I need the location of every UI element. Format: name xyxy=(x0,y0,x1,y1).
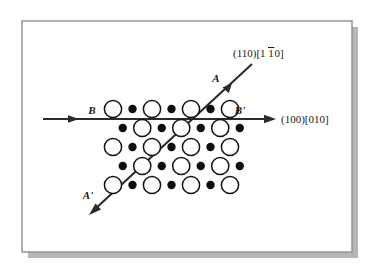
atom-open xyxy=(182,138,199,155)
label-plane-110-barred-digit: 1 xyxy=(268,47,274,59)
atom-filled xyxy=(206,181,214,189)
atom-open xyxy=(212,157,229,174)
atom-open xyxy=(182,100,199,117)
atom-filled xyxy=(206,105,214,113)
label-A-prime: A' xyxy=(82,189,93,201)
atom-filled xyxy=(206,143,214,151)
atom-open xyxy=(221,176,238,193)
atom-open xyxy=(182,176,199,193)
atom-filled xyxy=(167,143,175,151)
atom-open xyxy=(221,138,238,155)
label-plane-100: (100)[010] xyxy=(281,113,329,126)
atom-filled xyxy=(128,181,136,189)
label-A: A xyxy=(211,72,219,84)
atom-open xyxy=(212,119,229,136)
atom-filled xyxy=(236,162,244,170)
atom-filled xyxy=(197,124,205,132)
label-plane-110-tail: 0] xyxy=(275,47,284,59)
atom-filled xyxy=(167,181,175,189)
atom-open xyxy=(134,119,151,136)
atom-filled xyxy=(158,162,166,170)
atom-open xyxy=(134,157,151,174)
atom-open xyxy=(143,176,160,193)
lattice-slip-diagram: B B' A A' (110)[1 1 0] (100)[010] xyxy=(0,0,372,273)
atom-filled xyxy=(167,105,175,113)
atom-filled xyxy=(119,162,127,170)
atom-open xyxy=(173,157,190,174)
label-plane-110-head: (110)[1 xyxy=(233,47,266,60)
atom-open xyxy=(104,176,121,193)
atom-filled xyxy=(119,124,127,132)
atom-filled xyxy=(128,105,136,113)
label-plane-110: (110)[1 1 0] xyxy=(233,47,284,60)
atom-filled xyxy=(236,124,244,132)
figure-frame xyxy=(22,21,352,252)
atom-open xyxy=(104,100,121,117)
figure-container: B B' A A' (110)[1 1 0] (100)[010] xyxy=(0,0,372,273)
atom-open xyxy=(173,119,190,136)
atom-filled xyxy=(158,124,166,132)
label-B-prime: B' xyxy=(234,104,245,116)
atom-open xyxy=(104,138,121,155)
atom-open xyxy=(143,138,160,155)
atom-filled xyxy=(197,162,205,170)
atom-open xyxy=(143,100,160,117)
atom-filled xyxy=(128,143,136,151)
label-B: B xyxy=(87,104,95,116)
